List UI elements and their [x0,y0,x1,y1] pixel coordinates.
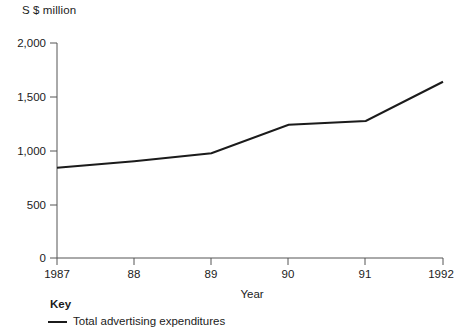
legend-item-label: Total advertising expenditures [73,315,225,328]
legend-line-swatch-icon [48,321,67,323]
x-tick-label-90: 90 [282,268,295,280]
series-line-total-advertising-expenditures [57,82,443,168]
x-tick-label-91: 91 [359,268,372,280]
legend-item: Total advertising expenditures [48,315,225,328]
plot-area [0,0,464,332]
legend: Key Total advertising expenditures [48,298,225,328]
y-axis-ticks [50,43,57,258]
x-tick-label-1992: 1992 [428,268,454,280]
legend-heading: Key [50,298,225,311]
x-tick-label-88: 88 [128,268,141,280]
x-axis-title: Year [240,288,263,300]
line-chart: S $ million 2,000 1,500 1,000 500 0 [0,0,464,332]
x-axis-ticks [57,258,443,265]
x-tick-label-89: 89 [205,268,218,280]
x-tick-label-1987: 1987 [44,268,70,280]
